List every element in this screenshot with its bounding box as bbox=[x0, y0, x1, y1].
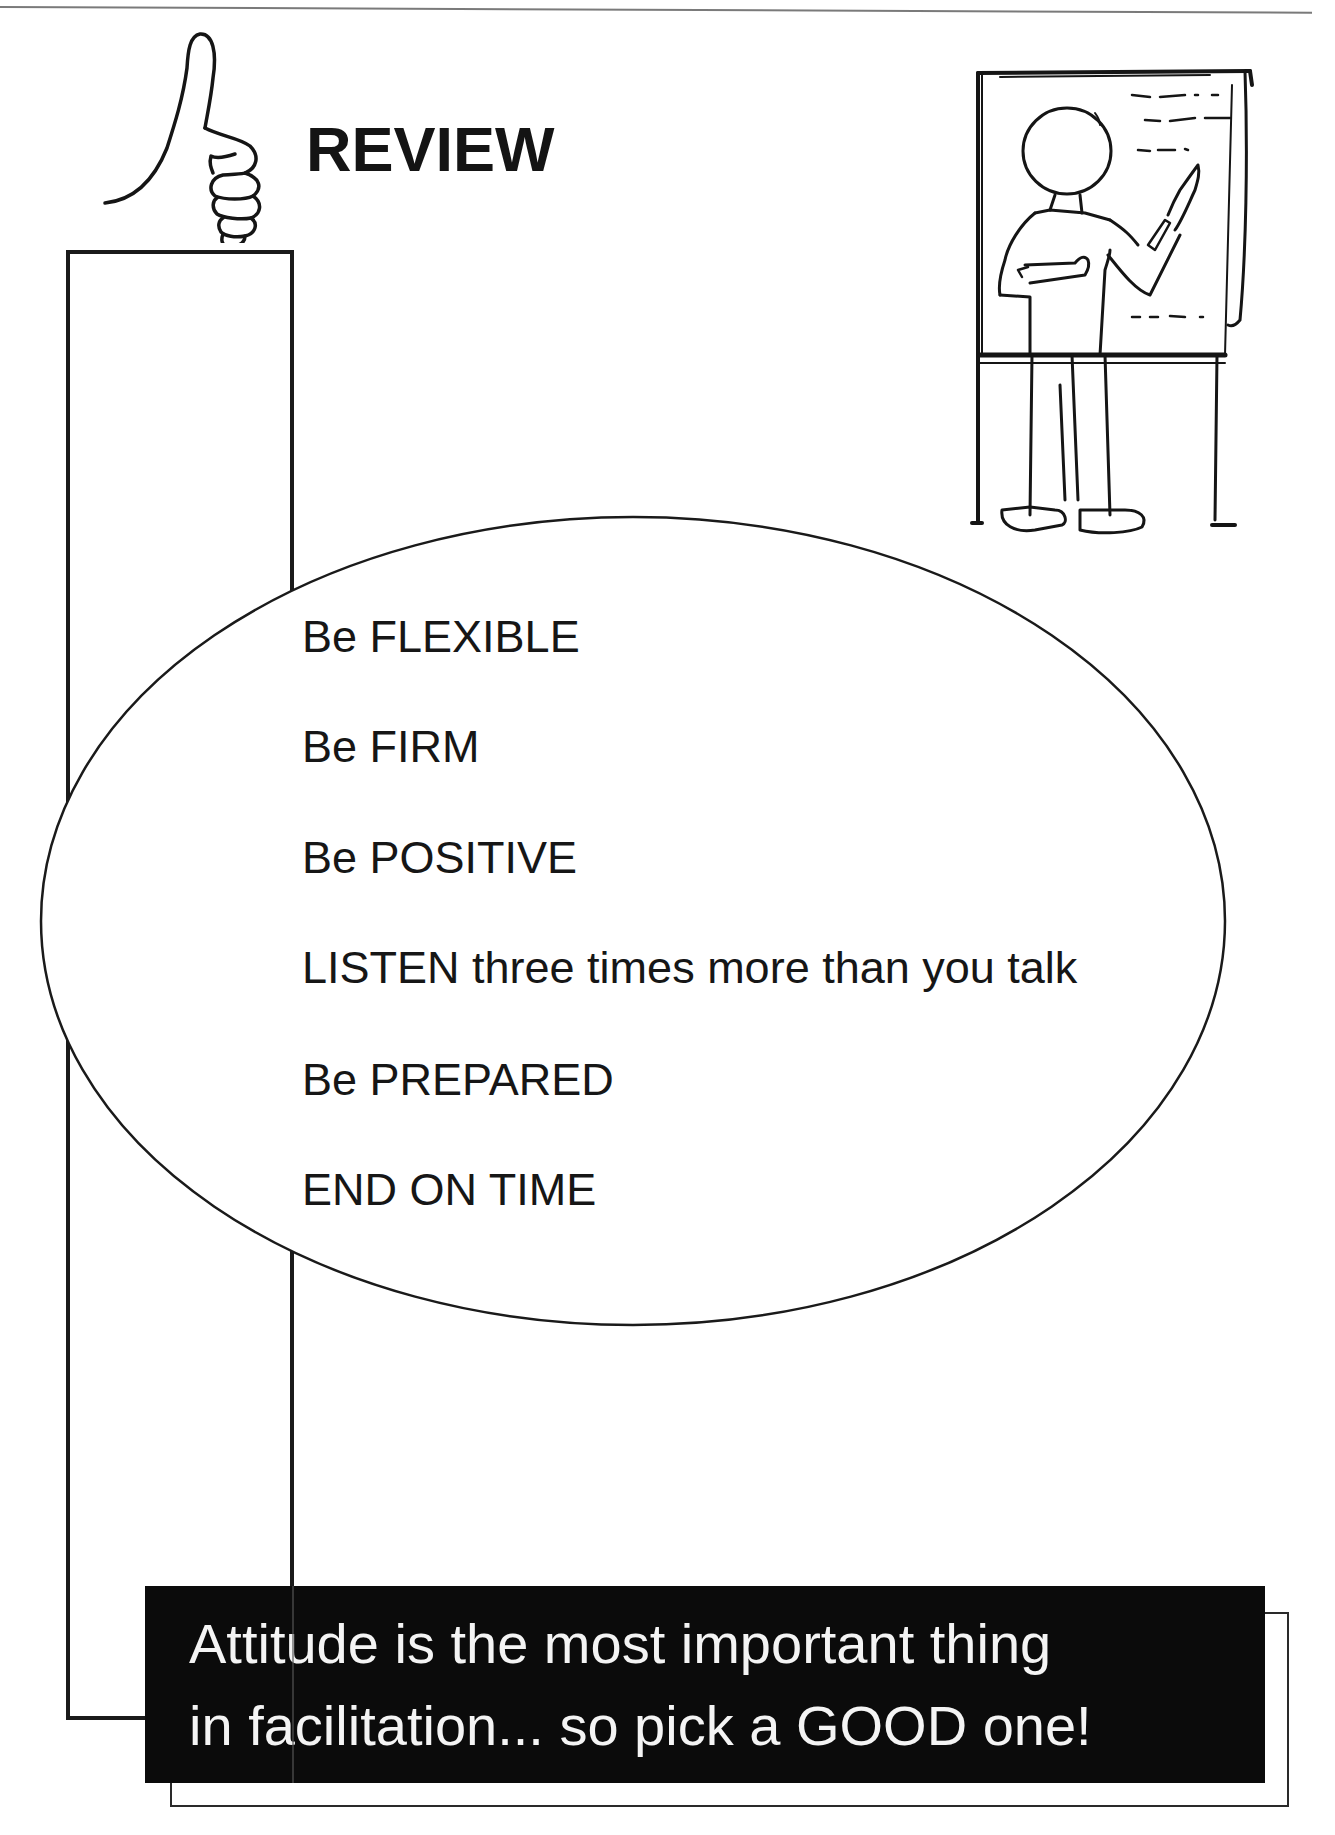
tip-item: Be FLEXIBLE bbox=[302, 614, 580, 659]
thumbs-up-icon bbox=[95, 28, 280, 243]
presenter-easel-illustration bbox=[960, 55, 1270, 545]
tip-item: Be POSITIVE bbox=[302, 835, 577, 880]
tip-item: Be PREPARED bbox=[302, 1057, 614, 1102]
page-title: REVIEW bbox=[306, 118, 555, 181]
tip-item: END ON TIME bbox=[302, 1167, 596, 1212]
attitude-banner: Attitude is the most important thing in … bbox=[145, 1586, 1265, 1783]
frame-line-through-banner bbox=[292, 1586, 294, 1783]
header-rule bbox=[0, 6, 1312, 14]
banner-line: Attitude is the most important thing bbox=[189, 1616, 1051, 1672]
tip-item: Be FIRM bbox=[302, 724, 480, 769]
sidebar-frame-right-edge bbox=[290, 1258, 294, 1298]
banner-line: in facilitation... so pick a GOOD one! bbox=[189, 1698, 1092, 1754]
tip-item: LISTEN three times more than you talk bbox=[302, 945, 1077, 990]
